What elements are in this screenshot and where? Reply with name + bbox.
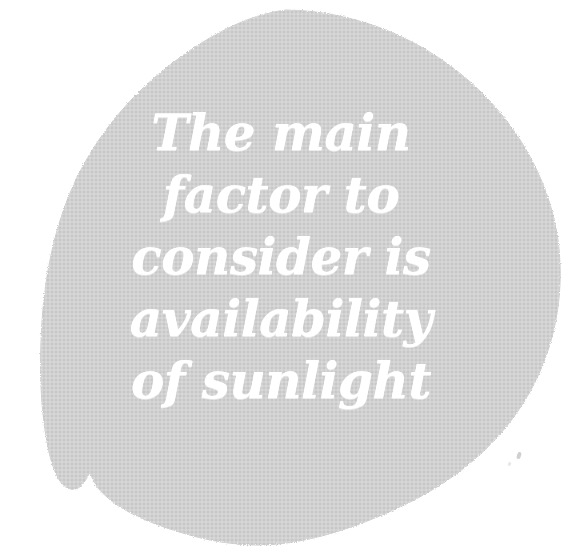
quote-text: The main factor to consider is availabil… bbox=[0, 102, 562, 412]
quote-line-1: The main bbox=[0, 102, 562, 164]
quote-line-2: factor to bbox=[0, 164, 562, 226]
quote-line-5: of sunlight bbox=[0, 350, 562, 412]
image-canvas: The main factor to consider is availabil… bbox=[0, 0, 562, 550]
quote-line-3: consider is bbox=[0, 226, 562, 288]
quote-line-4: availability bbox=[0, 288, 562, 350]
